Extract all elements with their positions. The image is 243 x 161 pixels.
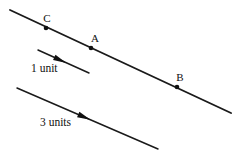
point-dot-b xyxy=(175,85,180,90)
three-units-label: 3 units xyxy=(40,116,72,128)
point-dot-c xyxy=(44,26,49,31)
geometry-figure: C A B 1 unit 3 units xyxy=(0,0,243,161)
figure-canvas: C A B 1 unit 3 units xyxy=(0,0,243,161)
point-dot-a xyxy=(89,46,94,51)
point-label-c: C xyxy=(43,12,50,24)
three-units-arrowhead xyxy=(77,112,90,120)
point-label-b: B xyxy=(176,71,183,83)
point-label-a: A xyxy=(91,32,99,44)
one-unit-label: 1 unit xyxy=(31,62,58,74)
